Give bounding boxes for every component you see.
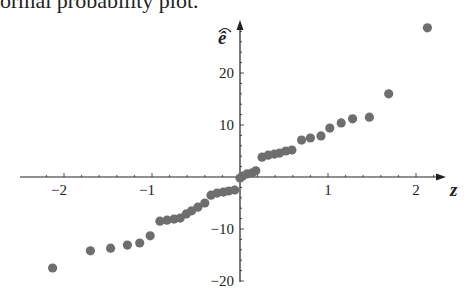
y-tick-label: −20 xyxy=(211,273,234,289)
data-point xyxy=(146,231,155,240)
normal-probability-plot: −2−1122010−10−20 z ê xyxy=(0,0,473,308)
y-tick-label: −10 xyxy=(211,221,234,237)
data-point xyxy=(365,113,374,122)
data-point xyxy=(48,263,57,272)
data-point xyxy=(135,238,144,247)
data-point xyxy=(325,124,334,133)
data-point xyxy=(348,114,357,123)
data-point xyxy=(423,23,432,32)
data-point xyxy=(384,89,393,98)
y-tick-label: 10 xyxy=(219,117,234,133)
data-point xyxy=(86,246,95,255)
y-axis-label: ê xyxy=(218,27,227,48)
data-point xyxy=(287,145,296,154)
x-axis-label: z xyxy=(449,179,458,200)
y-axis-arrow-icon xyxy=(237,20,244,30)
x-axis-arrow-icon xyxy=(436,174,446,181)
x-tick-label: −1 xyxy=(139,182,155,198)
data-point xyxy=(251,166,260,175)
data-point xyxy=(230,185,239,194)
data-point xyxy=(200,198,209,207)
data-point xyxy=(306,133,315,142)
x-tick-label: −2 xyxy=(51,182,67,198)
data-point xyxy=(337,118,346,127)
data-point xyxy=(106,244,115,253)
y-tick-label: 20 xyxy=(219,65,234,81)
data-point xyxy=(316,131,325,140)
x-tick-label: 1 xyxy=(324,182,332,198)
axes xyxy=(20,20,446,282)
data-point xyxy=(123,241,132,250)
x-tick-label: 2 xyxy=(412,182,420,198)
data-point xyxy=(297,136,306,145)
y-axis-label-text: ê xyxy=(218,27,227,48)
